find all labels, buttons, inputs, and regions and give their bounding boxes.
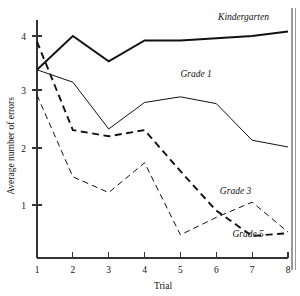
series-line-grade-5 <box>37 95 288 235</box>
chart-figure: 4 3 2 1 1 2 3 4 5 6 7 8 Trial Average nu… <box>0 0 300 296</box>
x-tick-label-4: 4 <box>142 265 147 275</box>
series-label-grade-3: Grade 3 <box>220 186 252 196</box>
x-tick-label-7: 7 <box>250 265 255 275</box>
x-tick-label-5: 5 <box>178 265 183 275</box>
y-tick-label-1: 1 <box>21 201 26 211</box>
series-label-kindergarten: Kindergarten <box>217 12 269 22</box>
series-line-grade-1 <box>37 70 288 147</box>
series-label-grade-5: Grade 5 <box>232 229 264 239</box>
y-tick-label-2: 2 <box>21 144 26 154</box>
y-tick-label-3: 3 <box>21 86 26 96</box>
x-tick-label-8: 8 <box>286 265 291 275</box>
line-chart: 4 3 2 1 1 2 3 4 5 6 7 8 Trial Average nu… <box>0 0 300 296</box>
series-label-grade-1: Grade 1 <box>180 69 211 79</box>
x-tick-label-2: 2 <box>71 265 76 275</box>
x-tick-label-3: 3 <box>106 265 111 275</box>
x-tick-label-1: 1 <box>35 265 40 275</box>
y-axis-title: Average number of errors <box>6 97 16 195</box>
series-line-kindergarten <box>37 31 288 69</box>
x-tick-label-6: 6 <box>214 265 219 275</box>
y-tick-label-4: 4 <box>21 32 26 42</box>
x-axis-title: Trial <box>154 281 172 291</box>
x-axis-ticks <box>37 252 288 258</box>
